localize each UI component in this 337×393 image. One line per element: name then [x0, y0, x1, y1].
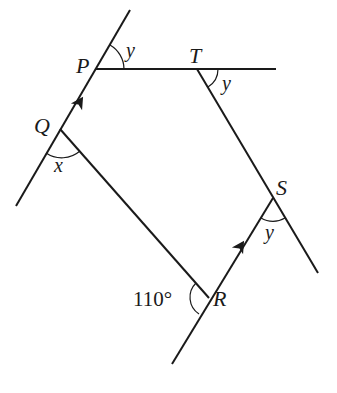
angle-arc-q [46, 151, 80, 158]
point-label-p: P [75, 53, 89, 78]
line-rs [172, 198, 273, 364]
angle-arc-r [190, 283, 199, 314]
line-qr [60, 129, 209, 298]
angle-label-p: y [124, 39, 135, 62]
angle-label-s: y [263, 221, 274, 244]
angle-label-r: 110° [133, 287, 172, 311]
line-qp [16, 10, 130, 206]
angle-arc-t [208, 69, 218, 87]
point-label-t: T [189, 43, 203, 68]
angle-label-t: y [220, 72, 231, 95]
line-ts [197, 69, 318, 273]
geometry-diagram: P T Q S R y y x y 110° [0, 0, 337, 393]
point-label-s: S [276, 175, 287, 200]
angle-label-q: x [53, 154, 63, 176]
point-label-q: Q [34, 113, 50, 138]
point-label-r: R [212, 286, 227, 311]
angle-arc-p [110, 45, 124, 69]
